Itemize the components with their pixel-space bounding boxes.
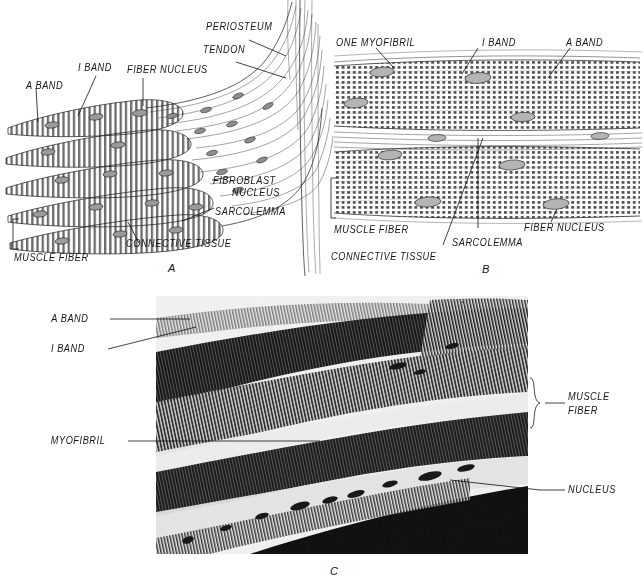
panel-c-label-fiber: FIBER <box>568 405 598 416</box>
panel-c-label-i-band: I BAND <box>51 343 85 354</box>
panel-c-label-a-band: A BAND <box>51 313 88 324</box>
panel-c-photomicrograph <box>0 0 644 586</box>
panel-c-label-myofibril: MYOFIBRIL <box>51 435 106 446</box>
panel-c-label-nucleus: NUCLEUS <box>568 484 616 495</box>
panel-c-photo-area <box>156 296 528 554</box>
panel-c-muscle-fiber-brace <box>530 378 540 428</box>
figure-muscle-fiber: A BAND I BAND FIBER NUCLEUS PERIOSTEUM T… <box>0 0 644 586</box>
panel-c-letter: C <box>330 565 338 577</box>
panel-c-label-muscle: MUSCLE <box>568 391 610 402</box>
